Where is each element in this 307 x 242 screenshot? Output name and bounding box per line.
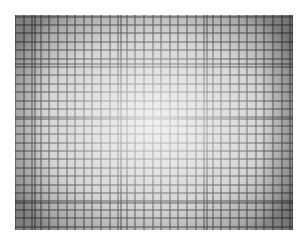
edge-shading [15,15,293,230]
image-canvas: Grayscale photograph of a fine square gr… [0,0,307,242]
grid-photograph: Grayscale photograph of a fine square gr… [15,15,293,230]
